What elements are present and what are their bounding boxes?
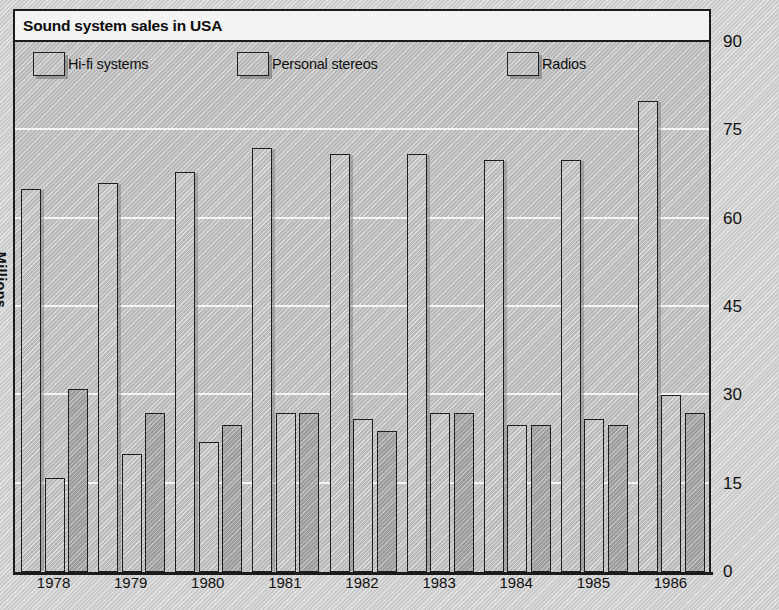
bar-personal-stereos-1982[interactable] xyxy=(353,419,373,572)
y-axis: 0153045607590 xyxy=(711,9,779,609)
plot-area: Hi-fi systems Personal stereos Radios xyxy=(15,42,709,572)
legend-item-radios[interactable]: Radios xyxy=(507,52,586,76)
x-tick-1978: 1978 xyxy=(37,574,70,591)
legend-item-personal-stereos[interactable]: Personal stereos xyxy=(237,52,378,76)
x-tick-1981: 1981 xyxy=(268,574,301,591)
bar-radios-1986[interactable] xyxy=(685,413,705,572)
bar-personal-stereos-1986[interactable] xyxy=(661,395,681,572)
bar-personal-stereos-1979[interactable] xyxy=(122,454,142,572)
bar-radios-1982[interactable] xyxy=(377,431,397,572)
bar-radios-1980[interactable] xyxy=(222,425,242,572)
x-tick-1984: 1984 xyxy=(500,574,533,591)
y-tick-0: 0 xyxy=(723,562,732,582)
x-tick-1980: 1980 xyxy=(191,574,224,591)
x-tick-1985: 1985 xyxy=(577,574,610,591)
bar-hifi-1982[interactable] xyxy=(330,154,350,572)
bar-personal-stereos-1978[interactable] xyxy=(45,478,65,572)
bar-personal-stereos-1983[interactable] xyxy=(430,413,450,572)
y-tick-60: 60 xyxy=(723,209,742,229)
y-tick-90: 90 xyxy=(723,32,742,52)
x-tick-1983: 1983 xyxy=(422,574,455,591)
bar-hifi-1980[interactable] xyxy=(175,172,195,572)
page-background: Hi-fi systems Personal stereos Radios So… xyxy=(0,0,779,610)
y-tick-30: 30 xyxy=(723,385,742,405)
legend-item-hifi[interactable]: Hi-fi systems xyxy=(33,52,148,76)
bar-hifi-1986[interactable] xyxy=(638,101,658,572)
bar-radios-1984[interactable] xyxy=(531,425,551,572)
legend-swatch-personal-stereos xyxy=(237,52,269,76)
y-tick-45: 45 xyxy=(723,297,742,317)
x-tick-1979: 1979 xyxy=(114,574,147,591)
chart-title-band: Sound system sales in USA xyxy=(13,9,711,42)
bar-radios-1978[interactable] xyxy=(68,389,88,572)
legend-swatch-hifi xyxy=(33,52,65,76)
bar-personal-stereos-1985[interactable] xyxy=(584,419,604,572)
bar-group-container xyxy=(15,42,709,572)
y-tick-75: 75 xyxy=(723,120,742,140)
bar-hifi-1978[interactable] xyxy=(21,189,41,572)
bar-personal-stereos-1981[interactable] xyxy=(276,413,296,572)
bar-personal-stereos-1980[interactable] xyxy=(199,442,219,572)
x-axis: 197819791980198119821983198419851986 xyxy=(15,574,709,604)
bar-radios-1981[interactable] xyxy=(299,413,319,572)
bar-hifi-1983[interactable] xyxy=(407,154,427,572)
legend-label-hifi: Hi-fi systems xyxy=(68,56,148,72)
x-tick-1982: 1982 xyxy=(345,574,378,591)
bar-hifi-1984[interactable] xyxy=(484,160,504,572)
chart-legend: Hi-fi systems Personal stereos Radios xyxy=(15,42,709,88)
x-tick-1986: 1986 xyxy=(654,574,687,591)
legend-label-radios: Radios xyxy=(542,56,586,72)
bar-hifi-1979[interactable] xyxy=(98,183,118,572)
page-title: Sound system sales in USA xyxy=(23,17,222,35)
bar-hifi-1981[interactable] xyxy=(252,148,272,572)
bar-radios-1979[interactable] xyxy=(145,413,165,572)
bar-personal-stereos-1984[interactable] xyxy=(507,425,527,572)
bar-radios-1983[interactable] xyxy=(454,413,474,572)
bar-radios-1985[interactable] xyxy=(608,425,628,572)
legend-label-personal-stereos: Personal stereos xyxy=(272,56,378,72)
y-tick-15: 15 xyxy=(723,474,742,494)
y-axis-label: Millions xyxy=(0,252,9,308)
bar-hifi-1985[interactable] xyxy=(561,160,581,572)
legend-swatch-radios xyxy=(507,52,539,76)
